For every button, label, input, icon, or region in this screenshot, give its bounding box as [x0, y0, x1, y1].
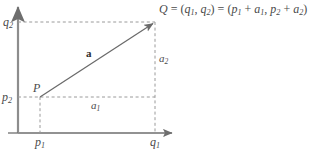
vector-diagram: q2 p2 p1 q1 P a1 a2 a Q = (q1, q2) = (p1… [0, 0, 311, 156]
vector-arrow-a [40, 24, 153, 98]
axis-group [8, 7, 172, 133]
component-label-a2: a2 [159, 53, 168, 66]
x-tick-label-p1: p1 [35, 136, 45, 150]
diagram-canvas [0, 0, 311, 156]
component-label-a1: a1 [91, 100, 100, 113]
point-label-p: P [33, 82, 40, 94]
y-tick-label-p2: p2 [2, 91, 12, 105]
x-tick-label-q1: q1 [150, 136, 160, 150]
point-label-q-expression: Q = (q1, q2) = (p1 + a1, p2 + a2) [159, 3, 307, 17]
vector-label-a: a [86, 48, 92, 59]
y-tick-label-q2: q2 [3, 16, 13, 30]
